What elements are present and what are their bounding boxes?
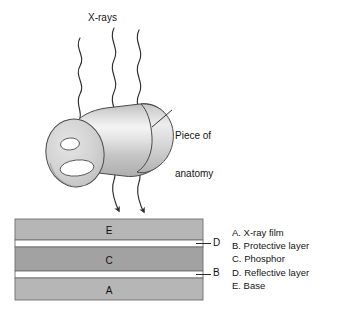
legend-item-b: B. Protective layer — [232, 239, 340, 252]
callout-letter-D: D — [213, 237, 220, 248]
xrays-label: X-rays — [88, 12, 117, 24]
layer-rect-B — [15, 271, 203, 278]
legend-item-d: D. Reflective layer — [232, 266, 340, 279]
anatomy-label-line1: Piece of — [175, 130, 213, 143]
layer-letter-E: E — [97, 225, 121, 236]
legend-item-a: A. X-ray film — [232, 226, 340, 239]
layer-letter-A: A — [97, 285, 121, 296]
anatomy-label: Piece of anatomy — [175, 105, 213, 205]
anatomy-label-line2: anatomy — [175, 168, 213, 181]
legend-item-c: C. Phosphor — [232, 252, 340, 265]
layer-letter-C: C — [97, 255, 121, 266]
xray-cassette-diagram: X-rays Piece of anatomy E C A D B A. X-r… — [0, 0, 344, 316]
callout-letter-B: B — [213, 267, 220, 278]
layer-rect-D — [15, 240, 203, 247]
legend-item-e: E. Base — [232, 279, 340, 292]
legend: A. X-ray film B. Protective layer C. Pho… — [232, 226, 340, 292]
cylinder-icon — [41, 104, 173, 191]
